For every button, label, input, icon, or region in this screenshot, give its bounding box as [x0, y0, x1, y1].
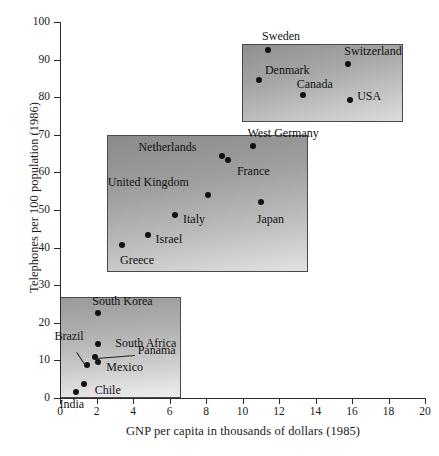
data-point	[347, 97, 353, 103]
point-label-south-korea: South Korea	[92, 295, 152, 307]
data-point	[205, 192, 211, 198]
x-tick-label-4: 4	[118, 406, 148, 418]
x-tick-label-16: 16	[337, 406, 367, 418]
point-label-israel: Israel	[156, 233, 183, 245]
point-label-india: India	[59, 398, 84, 410]
x-tick-18	[389, 398, 390, 404]
y-tick-80	[54, 97, 60, 98]
point-label-west-germany: West Germany	[247, 127, 318, 139]
point-label-chile: Chile	[95, 384, 121, 396]
x-tick-2	[97, 398, 98, 404]
point-label-mexico: Mexico	[106, 361, 143, 373]
y-tick-label-100: 100	[4, 16, 50, 28]
group-box-middle-income	[107, 135, 308, 272]
y-tick-50	[54, 210, 60, 211]
point-label-france: France	[237, 165, 270, 177]
point-label-canada: Canada	[297, 78, 333, 90]
y-tick-70	[54, 135, 60, 136]
x-tick-label-2: 2	[82, 406, 112, 418]
data-point	[95, 359, 101, 365]
data-point	[95, 310, 101, 316]
x-tick-label-6: 6	[155, 406, 185, 418]
y-tick-30	[54, 285, 60, 286]
x-tick-label-10: 10	[228, 406, 258, 418]
data-point	[265, 47, 271, 53]
x-tick-label-14: 14	[301, 406, 331, 418]
point-label-denmark: Denmark	[265, 64, 310, 76]
data-point	[73, 389, 79, 395]
point-label-sweden: Sweden	[262, 30, 300, 42]
data-point	[119, 242, 125, 248]
point-label-japan: Japan	[257, 213, 284, 225]
x-tick-label-18: 18	[374, 406, 404, 418]
point-label-switzerland: Switzerland	[344, 45, 401, 57]
x-axis-title: GNP per capita in thousands of dollars (…	[60, 424, 426, 439]
x-tick-label-20: 20	[410, 406, 439, 418]
y-tick-60	[54, 172, 60, 173]
y-tick-40	[54, 248, 60, 249]
y-tick-10	[54, 360, 60, 361]
point-label-united-kingdom: United Kingdom	[108, 176, 189, 188]
data-point	[345, 61, 351, 67]
point-label-netherlands: Netherlands	[138, 141, 196, 153]
y-tick-20	[54, 323, 60, 324]
point-label-panama: Panama	[138, 344, 176, 356]
x-tick-label-8: 8	[191, 406, 221, 418]
data-point	[172, 212, 178, 218]
point-label-brazil: Brazil	[54, 330, 83, 342]
x-tick-6	[170, 398, 171, 404]
scatter-chart: 010203040506070809010002468101214161820 …	[0, 0, 439, 456]
x-tick-14	[316, 398, 317, 404]
data-point	[95, 341, 101, 347]
x-tick-10	[243, 398, 244, 404]
x-tick-20	[425, 398, 426, 404]
data-point	[250, 143, 256, 149]
data-point	[81, 381, 87, 387]
x-tick-4	[133, 398, 134, 404]
x-tick-8	[206, 398, 207, 404]
point-label-italy: Italy	[183, 213, 205, 225]
y-tick-90	[54, 60, 60, 61]
data-point	[145, 232, 151, 238]
x-tick-label-12: 12	[264, 406, 294, 418]
y-axis-title: Telephones per 100 population (1986)	[27, 48, 42, 348]
x-tick-12	[279, 398, 280, 404]
y-tick-label-0: 0	[4, 392, 50, 404]
data-point	[225, 157, 231, 163]
point-label-greece: Greece	[120, 254, 154, 266]
data-point	[256, 77, 262, 83]
y-tick-label-10: 10	[4, 354, 50, 366]
data-point	[258, 199, 264, 205]
point-label-usa: USA	[357, 90, 381, 102]
data-point	[300, 92, 306, 98]
x-tick-16	[352, 398, 353, 404]
y-tick-100	[54, 22, 60, 23]
